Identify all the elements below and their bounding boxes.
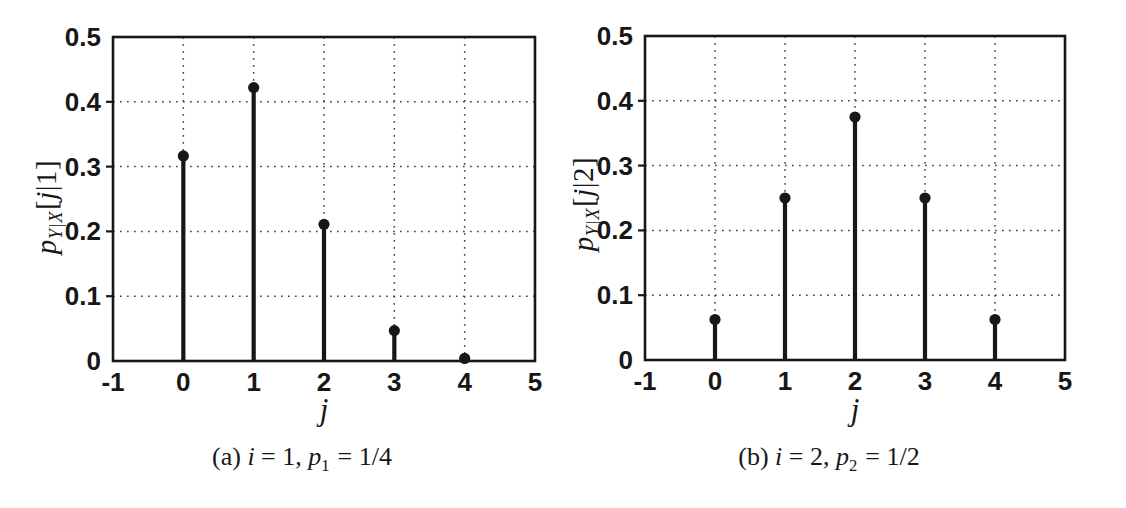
x-tick-label: 4 [988, 366, 1003, 396]
stem-plots-canvas: -101234500.10.20.30.40.5-101234500.10.20… [0, 0, 1126, 508]
caption-var-i: i [247, 442, 254, 471]
caption-b: (b) i = 2, p2 = 1/2 [616, 443, 1042, 475]
ylabel-arg: j [30, 191, 62, 200]
stem-marker [919, 192, 930, 203]
x-axis-label-b: j [645, 394, 1065, 425]
stem-plot-a: -101234500.10.20.30.40.5 [65, 22, 542, 397]
x-tick-label: -1 [633, 366, 656, 396]
stem-marker [178, 150, 189, 161]
x-tick-label: 5 [1058, 366, 1072, 396]
y-axis-label-b: pY|X[j|2] [569, 157, 603, 251]
caption-tag: (a) [212, 442, 241, 471]
stem-marker [779, 192, 790, 203]
x-tick-label: 3 [918, 366, 932, 396]
y-tick-label: 0.5 [65, 22, 101, 52]
y-tick-label: 0.2 [65, 216, 101, 246]
x-tick-label: 0 [708, 366, 722, 396]
caption-eq-i: = 1, [261, 442, 302, 471]
ylabel-rest: |2] [567, 157, 599, 188]
stem-marker [849, 111, 860, 122]
caption-sub-p: 2 [849, 456, 858, 475]
ylabel-subscript: Y|X [582, 208, 603, 236]
y-tick-label: 0.3 [65, 152, 101, 182]
ylabel-bracket: [ [567, 197, 599, 207]
caption-eq-p: = 1/4 [338, 442, 392, 471]
y-tick-label: 0.4 [597, 86, 634, 116]
x-axis-label-a: j [113, 394, 535, 425]
caption-eq-i: = 2, [789, 442, 830, 471]
y-tick-label: 0 [87, 346, 101, 376]
ylabel-bracket: [ [30, 200, 62, 210]
caption-var-p: p [836, 442, 849, 471]
ylabel-subscript: Y|X [45, 211, 66, 239]
stem-marker [318, 219, 329, 230]
x-tick-label: 5 [528, 367, 542, 397]
x-tick-label: -1 [101, 367, 124, 397]
stem-marker [709, 314, 720, 325]
figure-page: -101234500.10.20.30.40.5-101234500.10.20… [0, 0, 1126, 508]
stem-marker [248, 82, 259, 93]
ylabel-var: p [30, 239, 62, 254]
x-tick-label: 0 [176, 367, 190, 397]
caption-var-p: p [308, 442, 321, 471]
x-tick-label: 1 [246, 367, 260, 397]
x-tick-label: 4 [457, 367, 472, 397]
stem-plot-b: -101234500.10.20.30.40.5 [597, 21, 1072, 396]
x-tick-label: 3 [387, 367, 401, 397]
x-tick-label: 1 [778, 366, 792, 396]
caption-sub-p: 1 [321, 456, 330, 475]
y-tick-label: 0 [619, 345, 633, 375]
ylabel-rest: |1] [30, 160, 62, 191]
y-tick-label: 0.1 [65, 281, 101, 311]
ylabel-var: p [567, 236, 599, 251]
y-tick-label: 0.4 [65, 87, 102, 117]
caption-a: (a) i = 1, p1 = 1/4 [89, 443, 515, 475]
caption-var-i: i [775, 442, 782, 471]
stem-marker [989, 314, 1000, 325]
stem-marker [389, 325, 400, 336]
y-axis-label-a: pY|X[j|1] [32, 160, 66, 254]
caption-tag: (b) [738, 442, 768, 471]
caption-eq-p: = 1/2 [865, 442, 919, 471]
ylabel-arg: j [567, 188, 599, 197]
y-tick-label: 0.5 [597, 21, 633, 51]
y-tick-label: 0.1 [597, 280, 633, 310]
